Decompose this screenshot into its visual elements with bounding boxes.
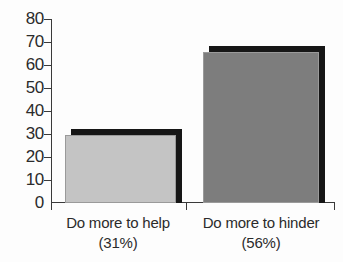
y-axis-tick-label: 70 — [14, 33, 44, 50]
bar-do-more-to-hinder[interactable] — [203, 46, 319, 203]
category-label-line2: (56%) — [186, 233, 336, 253]
y-axis-tick-label: 40 — [14, 102, 44, 119]
category-label-line1: Do more to help — [66, 214, 170, 231]
bar-fill — [203, 52, 319, 203]
y-axis-tick-label: 60 — [14, 56, 44, 73]
y-axis-tick-label: 50 — [14, 79, 44, 96]
y-axis-tick-label: 10 — [14, 171, 44, 188]
y-axis-labels: 80 70 60 50 40 30 20 10 0 — [8, 0, 44, 262]
plot-area — [51, 19, 335, 203]
category-label-line2: (31%) — [48, 233, 188, 253]
y-axis-tick-label: 0 — [14, 194, 44, 211]
x-axis-tick-mark — [51, 203, 52, 210]
bar-do-more-to-help[interactable] — [65, 129, 176, 203]
bar-chart: 80 70 60 50 40 30 20 10 0 Do more to hel… — [0, 0, 343, 262]
bar-fill — [65, 135, 176, 203]
y-axis-tick-label: 30 — [14, 125, 44, 142]
x-axis-category-label-help: Do more to help (31%) — [48, 213, 188, 253]
y-axis-tick-label: 80 — [14, 10, 44, 27]
y-axis-tick-label: 20 — [14, 148, 44, 165]
x-axis-tick-mark — [334, 203, 335, 210]
x-axis-category-label-hinder: Do more to hinder (56%) — [186, 213, 336, 253]
x-axis-tick-mark — [186, 203, 187, 210]
category-label-line1: Do more to hinder — [203, 214, 320, 231]
